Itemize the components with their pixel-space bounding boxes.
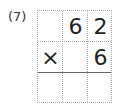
cell-r1-c2: 6 xyxy=(88,42,113,73)
cell-r0-c0 xyxy=(38,11,63,42)
cell-r0-c1: 6 xyxy=(63,11,88,42)
multiplication-grid: 6 2 × 6 xyxy=(37,10,112,103)
answer-cell-1[interactable] xyxy=(63,73,88,104)
answer-cell-2[interactable] xyxy=(88,73,113,104)
multiply-sign: × xyxy=(38,42,63,73)
problem-number: (7) xyxy=(8,9,26,24)
cell-r0-c2: 2 xyxy=(88,11,113,42)
cell-r1-c1 xyxy=(63,42,88,73)
answer-cell-0[interactable] xyxy=(38,73,63,104)
